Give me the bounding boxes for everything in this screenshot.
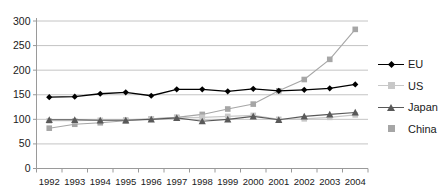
gridlines	[37, 21, 369, 144]
line-chart: 050100150200250300 199219931994199519961…	[0, 0, 444, 192]
y-axis-tick-label: 150	[0, 89, 31, 100]
y-axis-tick-label: 100	[0, 114, 31, 125]
data-point	[199, 86, 205, 92]
data-series-group	[46, 27, 359, 131]
legend-label: Japan	[408, 101, 438, 113]
data-point	[225, 106, 231, 112]
chart-plot-area	[0, 0, 444, 192]
series-eu	[46, 81, 358, 100]
legend-swatch-square-icon	[378, 123, 404, 135]
legend-swatch-square-icon	[378, 80, 404, 92]
y-axis-tick-label: 300	[0, 16, 31, 27]
data-point	[250, 101, 256, 107]
legend-label: US	[408, 80, 423, 92]
y-axis-tick-label: 50	[0, 138, 31, 149]
legend-swatch-diamond-icon	[378, 58, 404, 70]
legend-item-japan[interactable]: Japan	[378, 100, 438, 114]
data-point	[352, 81, 358, 87]
data-point	[225, 88, 231, 94]
y-axis-tick-label: 200	[0, 65, 31, 76]
legend-marker-square-icon	[388, 82, 395, 89]
legend-marker-diamond-icon	[388, 60, 395, 67]
data-point	[301, 87, 307, 93]
legend-marker-square-icon	[388, 125, 395, 132]
legend-swatch-triangle-icon	[378, 101, 404, 113]
data-point	[327, 85, 333, 91]
data-point	[46, 125, 52, 131]
legend-item-china[interactable]: China	[378, 122, 437, 136]
x-axis-tick-label: 2004	[340, 177, 372, 187]
legend-label: China	[408, 123, 437, 135]
data-point	[327, 57, 333, 63]
legend-item-eu[interactable]: EU	[378, 57, 423, 71]
data-point	[352, 27, 358, 33]
data-point	[301, 77, 307, 83]
legend-item-us[interactable]: US	[378, 79, 423, 93]
y-axis-tick-label: 0	[0, 163, 31, 174]
y-axis-tick-label: 250	[0, 40, 31, 51]
data-point	[148, 93, 154, 99]
data-point	[97, 91, 103, 97]
data-point	[174, 86, 180, 92]
legend-label: EU	[408, 58, 423, 70]
legend-marker-triangle-icon	[387, 104, 395, 111]
data-point	[250, 86, 256, 92]
